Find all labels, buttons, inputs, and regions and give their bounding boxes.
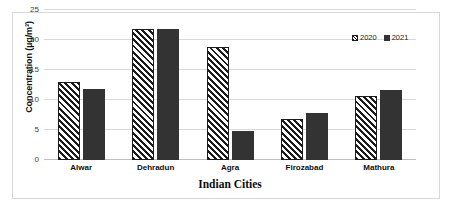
- x-axis-tick-label-agra: Agra: [193, 163, 267, 172]
- x-axis-tick-label-dehradun: Dehradun: [118, 163, 192, 172]
- x-axis-tick-label-firozabad: Firozabad: [267, 163, 341, 172]
- bar-mathura-2020: [355, 96, 377, 160]
- y-axis-tick-label: 0: [35, 155, 39, 164]
- bar-group: [118, 10, 192, 160]
- bar-group: [267, 10, 341, 160]
- x-axis-title: Indian Cities: [44, 178, 416, 190]
- x-axis-tick-labels: AlwarDehradunAgraFirozabadMathura: [44, 163, 416, 172]
- chart-legend: 20202021: [352, 33, 408, 42]
- legend-item-2021[interactable]: 2021: [384, 33, 409, 42]
- bar-group: [44, 10, 118, 160]
- bar-dehradun-2021: [157, 29, 179, 160]
- x-axis-tick-label-alwar: Alwar: [44, 163, 118, 172]
- y-axis-tick-label: 25: [30, 5, 39, 14]
- bar-agra-2021: [232, 131, 254, 160]
- bar-firozabad-2021: [306, 113, 328, 160]
- legend-item-2020[interactable]: 2020: [352, 33, 377, 42]
- bar-dehradun-2020: [132, 29, 154, 160]
- x-axis-tick-label-mathura: Mathura: [342, 163, 416, 172]
- bar-alwar-2020: [58, 82, 80, 160]
- bar-alwar-2021: [83, 89, 105, 160]
- legend-swatch-2021-icon: [384, 35, 390, 41]
- bar-group: [193, 10, 267, 160]
- y-axis-tick-label: 15: [30, 65, 39, 74]
- legend-label-2020: 2020: [360, 33, 377, 42]
- y-axis-tick-label: 20: [30, 35, 39, 44]
- y-axis-tick-label: 10: [30, 95, 39, 104]
- bar-agra-2020: [207, 47, 229, 160]
- legend-label-2021: 2021: [392, 33, 409, 42]
- bar-mathura-2021: [380, 90, 402, 160]
- legend-swatch-2020-icon: [352, 35, 358, 41]
- chart-figure: Concentration (µg/m³) 0510152025 AlwarDe…: [0, 0, 452, 211]
- bar-firozabad-2020: [281, 119, 303, 160]
- y-axis-tick-label: 5: [35, 125, 39, 134]
